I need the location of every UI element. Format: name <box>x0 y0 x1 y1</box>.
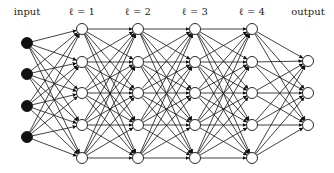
output-node <box>303 88 314 99</box>
label-layer-4: ℓ = 4 <box>239 6 265 17</box>
edge <box>257 32 303 59</box>
input-node <box>22 101 33 112</box>
edge <box>32 30 76 41</box>
l2-node <box>133 57 144 68</box>
label-layer-1: ℓ = 1 <box>69 6 95 17</box>
l3-node <box>190 120 201 131</box>
l2-node <box>133 24 144 35</box>
l1-node <box>77 153 88 164</box>
l3-node <box>190 88 201 99</box>
edges <box>29 29 305 158</box>
label-output: output <box>291 6 324 17</box>
label-layer-2: ℓ = 2 <box>125 6 151 17</box>
l1-node <box>77 24 88 35</box>
l4-node <box>247 24 258 35</box>
input-node <box>22 69 33 80</box>
l2-node <box>133 153 144 164</box>
input-node <box>22 38 33 49</box>
l1-node <box>77 57 88 68</box>
l1-node <box>77 120 88 131</box>
l4-node <box>247 88 258 99</box>
edge <box>257 128 304 155</box>
input-node <box>22 132 33 143</box>
edge <box>32 139 77 156</box>
l2-node <box>133 88 144 99</box>
l2-node <box>133 120 144 131</box>
label-layer-3: ℓ = 3 <box>182 6 208 17</box>
l4-node <box>247 120 258 131</box>
output-node <box>303 120 314 131</box>
edge <box>30 33 79 101</box>
l3-node <box>190 57 201 68</box>
edge <box>255 66 306 153</box>
l3-node <box>190 24 201 35</box>
l3-node <box>190 153 201 164</box>
edge <box>256 97 305 154</box>
neural-network-diagram: input ℓ = 1 ℓ = 2 ℓ = 3 ℓ = 4 output <box>0 0 334 173</box>
edge <box>257 61 302 62</box>
l4-node <box>247 57 258 68</box>
l1-node <box>77 88 88 99</box>
output-node <box>303 56 314 67</box>
label-input: input <box>14 6 41 17</box>
l4-node <box>247 153 258 164</box>
edge <box>30 66 78 132</box>
